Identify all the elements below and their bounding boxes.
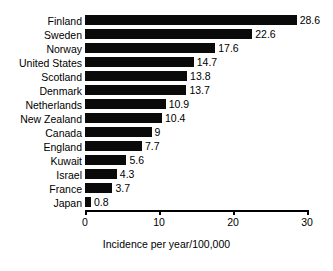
bar-row: 5.6: [85, 154, 307, 168]
bar: [85, 127, 152, 137]
bar-value-label: 5.6: [126, 154, 144, 168]
bar-row: 10.9: [85, 98, 307, 112]
bar-value-label: 22.6: [252, 28, 275, 42]
category-label-column: FinlandSwedenNorwayUnited StatesScotland…: [0, 14, 82, 210]
bar-row: 14.7: [85, 56, 307, 70]
bar-value-label: 0.8: [91, 196, 109, 210]
bar: [85, 99, 166, 109]
category-label: Kuwait: [0, 154, 82, 168]
x-axis-title: Incidence per year/100,000: [0, 238, 333, 250]
x-axis-line: [85, 210, 308, 212]
category-label: Norway: [0, 42, 82, 56]
bar-row: 0.8: [85, 196, 307, 210]
bar-value-label: 13.8: [187, 70, 210, 84]
x-tick-label: 10: [144, 216, 174, 228]
x-tick: [233, 210, 235, 215]
bar-value-label: 14.7: [194, 56, 217, 70]
x-tick: [307, 210, 309, 215]
x-tick: [159, 210, 161, 215]
category-label: France: [0, 182, 82, 196]
bar-value-label: 4.3: [117, 168, 135, 182]
category-label: Israel: [0, 168, 82, 182]
x-tick-label: 30: [292, 216, 322, 228]
bar-value-label: 10.9: [166, 98, 189, 112]
bar-row: 17.6: [85, 42, 307, 56]
bar-value-label: 17.6: [215, 42, 238, 56]
bar-value-label: 7.7: [142, 140, 160, 154]
category-label: Denmark: [0, 84, 82, 98]
bar-row: 13.8: [85, 70, 307, 84]
bar-value-label: 28.6: [297, 14, 320, 28]
category-label: England: [0, 140, 82, 154]
bar-row: 22.6: [85, 28, 307, 42]
bar: [85, 183, 112, 193]
bar: [85, 169, 117, 179]
category-label: Sweden: [0, 28, 82, 42]
bar-row: 3.7: [85, 182, 307, 196]
incidence-bar-chart: FinlandSwedenNorwayUnited StatesScotland…: [0, 0, 333, 271]
plot-area: 28.622.617.614.713.813.710.910.497.75.64…: [85, 14, 307, 210]
bar: [85, 155, 126, 165]
bar-value-label: 9: [152, 126, 161, 140]
category-label: Netherlands: [0, 98, 82, 112]
bar-row: 13.7: [85, 84, 307, 98]
bar-row: 28.6: [85, 14, 307, 28]
category-label: Canada: [0, 126, 82, 140]
bar: [85, 85, 186, 95]
bar: [85, 29, 252, 39]
bar: [85, 71, 187, 81]
bar: [85, 57, 194, 67]
bar-row: 10.4: [85, 112, 307, 126]
x-tick-label: 0: [70, 216, 100, 228]
category-label: Scotland: [0, 70, 82, 84]
bar: [85, 43, 215, 53]
bar-value-label: 3.7: [112, 182, 130, 196]
bar-value-label: 10.4: [162, 112, 185, 126]
bar: [85, 141, 142, 151]
category-label: Japan: [0, 196, 82, 210]
category-label: United States: [0, 56, 82, 70]
x-tick-label: 20: [218, 216, 248, 228]
category-label: New Zealand: [0, 112, 82, 126]
bar-row: 4.3: [85, 168, 307, 182]
bar-row: 9: [85, 126, 307, 140]
bar-row: 7.7: [85, 140, 307, 154]
bar-value-label: 13.7: [186, 84, 209, 98]
bar: [85, 113, 162, 123]
category-label: Finland: [0, 14, 82, 28]
bar: [85, 15, 297, 25]
x-tick: [85, 210, 87, 215]
